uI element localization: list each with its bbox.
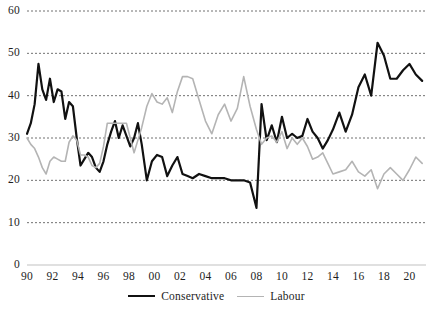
y-tick-label: 50 [0,47,20,59]
data-series [27,43,422,208]
x-tick-label: 96 [91,271,115,283]
legend-label-labour: Labour [270,290,304,302]
y-tick-label: 20 [0,174,20,186]
series-line-conservative [27,43,422,208]
x-tick-label: 02 [168,271,192,283]
y-tick-label: 60 [0,5,20,17]
x-tick-label: 14 [321,271,345,283]
x-tick-label: 20 [397,271,421,283]
plot-area [0,0,433,314]
x-tick-label: 18 [372,271,396,283]
legend-label-conservative: Conservative [161,290,224,302]
x-tick-label: 12 [295,271,319,283]
x-tick-label: 08 [244,271,268,283]
series-line-labour [27,77,422,189]
y-tick-label: 0 [0,259,20,271]
legend-item-conservative: Conservative [128,290,224,302]
legend-swatch-labour-icon [237,296,264,297]
x-tick-label: 00 [142,271,166,283]
x-tick-label: 06 [219,271,243,283]
x-tick-label: 92 [40,271,64,283]
x-tick-label: 04 [193,271,217,283]
chart-legend: Conservative Labour [0,287,433,305]
x-tick-label: 10 [270,271,294,283]
x-tick-label: 98 [117,271,141,283]
x-tick-label: 94 [66,271,90,283]
line-chart: 0102030405060 90929496980002040608101214… [0,0,433,314]
x-tick-label: 90 [15,271,39,283]
y-tick-label: 30 [0,132,20,144]
y-tick-label: 40 [0,90,20,102]
x-tick-label: 16 [346,271,370,283]
legend-swatch-conservative-icon [128,295,155,297]
y-tick-label: 10 [0,217,20,229]
gridlines [27,11,426,223]
legend-item-labour: Labour [237,290,304,302]
